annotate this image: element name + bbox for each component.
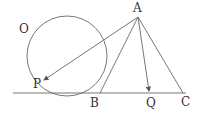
label-b: B bbox=[90, 97, 99, 109]
geometry-diagram: O A P B Q C bbox=[0, 0, 200, 116]
label-a: A bbox=[133, 2, 142, 14]
label-o: O bbox=[19, 23, 29, 35]
arrow-ap bbox=[44, 17, 138, 80]
diagram-canvas bbox=[0, 0, 200, 116]
segment-ac bbox=[138, 17, 183, 93]
label-c: C bbox=[181, 96, 190, 108]
segment-ab bbox=[100, 17, 138, 93]
label-p: P bbox=[33, 78, 41, 90]
label-q: Q bbox=[146, 97, 156, 109]
arrow-aq bbox=[138, 17, 149, 91]
